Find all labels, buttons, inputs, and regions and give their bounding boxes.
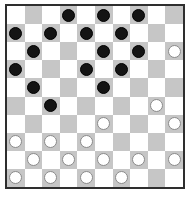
white-piece[interactable] <box>168 153 181 166</box>
square-r3-c9 <box>165 60 183 78</box>
square-r2-c7[interactable] <box>130 42 148 60</box>
square-r7-c4[interactable] <box>77 133 95 151</box>
square-r7-c6[interactable] <box>113 133 131 151</box>
square-r7-c9 <box>165 133 183 151</box>
black-piece[interactable] <box>115 63 128 76</box>
white-piece[interactable] <box>97 153 110 166</box>
black-piece[interactable] <box>97 45 110 58</box>
square-r7-c8[interactable] <box>148 133 166 151</box>
black-piece[interactable] <box>115 27 128 40</box>
square-r0-c6 <box>113 6 131 24</box>
square-r5-c6[interactable] <box>113 97 131 115</box>
black-piece[interactable] <box>97 9 110 22</box>
white-piece[interactable] <box>27 153 40 166</box>
square-r4-c5[interactable] <box>95 78 113 96</box>
black-piece[interactable] <box>80 63 93 76</box>
square-r6-c5[interactable] <box>95 115 113 133</box>
square-r6-c9[interactable] <box>165 115 183 133</box>
square-r2-c3[interactable] <box>60 42 78 60</box>
square-r8-c1[interactable] <box>25 151 43 169</box>
square-r0-c7[interactable] <box>130 6 148 24</box>
square-r3-c1 <box>25 60 43 78</box>
square-r8-c3[interactable] <box>60 151 78 169</box>
square-r3-c2[interactable] <box>42 60 60 78</box>
square-r8-c6 <box>113 151 131 169</box>
black-piece[interactable] <box>9 27 22 40</box>
square-r6-c1[interactable] <box>25 115 43 133</box>
square-r9-c9 <box>165 169 183 187</box>
square-r3-c6[interactable] <box>113 60 131 78</box>
square-r7-c2[interactable] <box>42 133 60 151</box>
white-piece[interactable] <box>168 45 181 58</box>
square-r5-c0[interactable] <box>7 97 25 115</box>
white-piece[interactable] <box>9 171 22 184</box>
square-r1-c3 <box>60 24 78 42</box>
white-piece[interactable] <box>115 171 128 184</box>
square-r6-c8 <box>148 115 166 133</box>
square-r1-c6[interactable] <box>113 24 131 42</box>
square-r9-c4[interactable] <box>77 169 95 187</box>
black-piece[interactable] <box>27 45 40 58</box>
square-r8-c9[interactable] <box>165 151 183 169</box>
square-r2-c9[interactable] <box>165 42 183 60</box>
square-r9-c0[interactable] <box>7 169 25 187</box>
white-piece[interactable] <box>80 171 93 184</box>
square-r6-c7[interactable] <box>130 115 148 133</box>
square-r6-c2 <box>42 115 60 133</box>
square-r5-c4[interactable] <box>77 97 95 115</box>
square-r2-c4 <box>77 42 95 60</box>
square-r0-c5[interactable] <box>95 6 113 24</box>
square-r4-c9[interactable] <box>165 78 183 96</box>
black-piece[interactable] <box>62 9 75 22</box>
white-piece[interactable] <box>80 135 93 148</box>
white-piece[interactable] <box>62 153 75 166</box>
square-r5-c8[interactable] <box>148 97 166 115</box>
square-r3-c0[interactable] <box>7 60 25 78</box>
square-r3-c5 <box>95 60 113 78</box>
square-r9-c6[interactable] <box>113 169 131 187</box>
square-r1-c1 <box>25 24 43 42</box>
black-piece[interactable] <box>97 81 110 94</box>
white-piece[interactable] <box>97 117 110 130</box>
square-r7-c3 <box>60 133 78 151</box>
black-piece[interactable] <box>27 81 40 94</box>
square-r0-c1[interactable] <box>25 6 43 24</box>
square-r0-c9[interactable] <box>165 6 183 24</box>
square-r6-c3[interactable] <box>60 115 78 133</box>
square-r5-c2[interactable] <box>42 97 60 115</box>
white-piece[interactable] <box>9 135 22 148</box>
square-r0-c3[interactable] <box>60 6 78 24</box>
square-r8-c7[interactable] <box>130 151 148 169</box>
black-piece[interactable] <box>132 9 145 22</box>
square-r1-c8[interactable] <box>148 24 166 42</box>
square-r3-c8[interactable] <box>148 60 166 78</box>
square-r7-c0[interactable] <box>7 133 25 151</box>
square-r8-c0 <box>7 151 25 169</box>
square-r9-c2[interactable] <box>42 169 60 187</box>
black-piece[interactable] <box>44 27 57 40</box>
white-piece[interactable] <box>168 117 181 130</box>
square-r2-c1[interactable] <box>25 42 43 60</box>
square-r1-c2[interactable] <box>42 24 60 42</box>
white-piece[interactable] <box>150 99 163 112</box>
square-r4-c1[interactable] <box>25 78 43 96</box>
black-piece[interactable] <box>9 63 22 76</box>
square-r2-c5[interactable] <box>95 42 113 60</box>
square-r1-c0[interactable] <box>7 24 25 42</box>
square-r0-c8 <box>148 6 166 24</box>
square-r9-c8[interactable] <box>148 169 166 187</box>
white-piece[interactable] <box>44 135 57 148</box>
black-piece[interactable] <box>44 99 57 112</box>
square-r4-c3[interactable] <box>60 78 78 96</box>
square-r3-c4[interactable] <box>77 60 95 78</box>
white-piece[interactable] <box>44 171 57 184</box>
black-piece[interactable] <box>132 45 145 58</box>
square-r4-c0 <box>7 78 25 96</box>
white-piece[interactable] <box>132 153 145 166</box>
square-r8-c5[interactable] <box>95 151 113 169</box>
square-r4-c7[interactable] <box>130 78 148 96</box>
square-r2-c0 <box>7 42 25 60</box>
square-r4-c6 <box>113 78 131 96</box>
square-r1-c4[interactable] <box>77 24 95 42</box>
black-piece[interactable] <box>80 27 93 40</box>
